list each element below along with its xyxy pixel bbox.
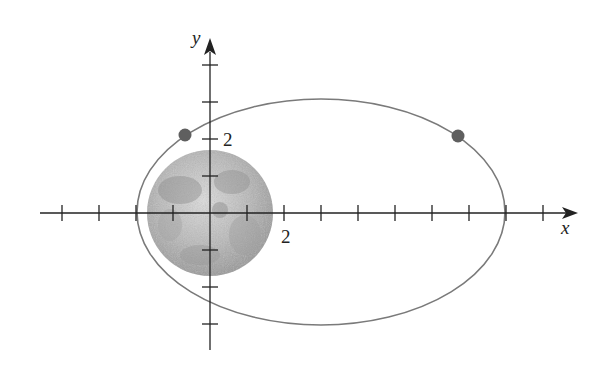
x-axis: x 2 xyxy=(40,205,578,247)
x-tick-label: 2 xyxy=(281,226,291,247)
orbit-point-left xyxy=(179,129,192,142)
y-axis-label: y xyxy=(190,27,201,48)
orbit-diagram: x 2 y 2 xyxy=(0,0,612,374)
orbit-point-right xyxy=(452,130,465,143)
y-tick-label: 2 xyxy=(223,129,233,150)
x-axis-label: x xyxy=(560,217,570,238)
